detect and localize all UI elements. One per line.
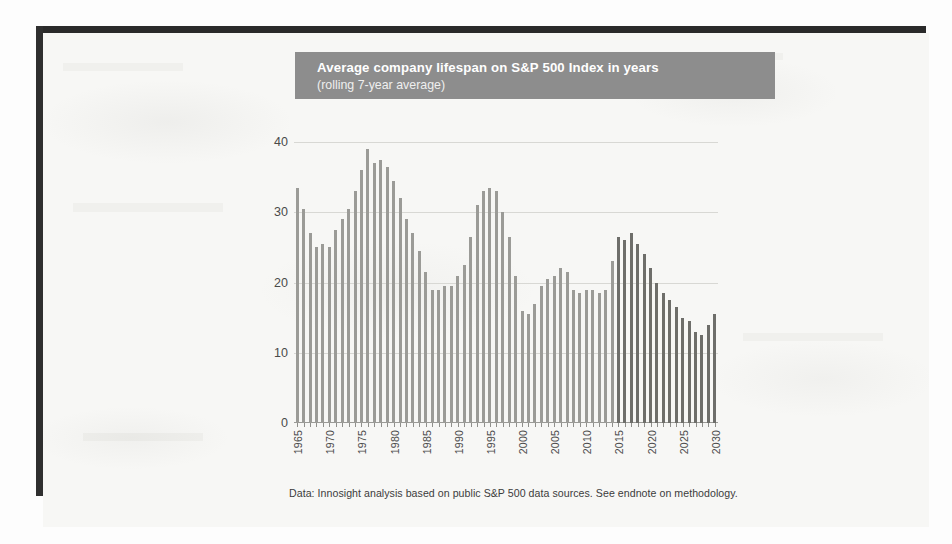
bar	[591, 290, 594, 423]
x-axis-tick-mark	[336, 423, 337, 427]
x-axis-tick-label: 1995	[485, 430, 497, 454]
x-axis-tick-mark	[503, 423, 504, 427]
bar	[321, 244, 324, 423]
bar	[533, 304, 536, 423]
x-axis-tick-mark	[573, 423, 574, 427]
bar	[482, 191, 485, 423]
bar	[296, 188, 299, 423]
x-axis-tick-mark	[464, 423, 465, 427]
plot-area	[294, 128, 718, 423]
bar	[437, 290, 440, 423]
x-axis-tick-mark	[638, 423, 639, 427]
bar	[476, 205, 479, 423]
chart-subtitle: (rolling 7-year average)	[317, 77, 775, 93]
x-axis-tick-label: 1965	[292, 430, 304, 454]
x-axis-tick-label: 1985	[421, 430, 433, 454]
bar	[681, 318, 684, 423]
bar	[521, 311, 524, 423]
bar	[514, 276, 517, 424]
x-axis-tick-mark	[490, 423, 491, 427]
x-axis-tick-mark	[342, 423, 343, 427]
x-axis-tick-mark	[304, 423, 305, 427]
bar	[572, 290, 575, 423]
x-axis-tick-mark	[509, 423, 510, 427]
bar	[508, 237, 511, 423]
x-axis-tick-mark	[368, 423, 369, 427]
y-axis: 010203040	[262, 128, 288, 423]
bar	[611, 261, 614, 423]
chart-plot-wrapper: 010203040 196519701975198019851990199520…	[262, 118, 732, 430]
bar	[630, 233, 633, 423]
x-axis-tick-mark	[670, 423, 671, 427]
x-axis-tick-label: 1975	[356, 430, 368, 454]
x-axis-tick-mark	[644, 423, 645, 427]
x-axis-tick-mark	[554, 423, 555, 427]
x-axis-tick-mark	[541, 423, 542, 427]
x-axis-tick-mark	[323, 423, 324, 427]
x-axis-tick-mark	[528, 423, 529, 427]
bar	[456, 276, 459, 424]
chart-source-note: Data: Innosight analysis based on public…	[289, 487, 809, 499]
x-axis-tick-label: 1970	[324, 430, 336, 454]
x-axis-tick-mark	[702, 423, 703, 427]
x-axis-tick-mark	[445, 423, 446, 427]
bar	[495, 191, 498, 423]
x-axis-tick-mark	[599, 423, 600, 427]
bar	[649, 268, 652, 423]
x-axis-tick-mark	[522, 423, 523, 427]
x-axis-tick-mark	[696, 423, 697, 427]
x-axis-tick-mark	[580, 423, 581, 427]
bar	[688, 321, 691, 423]
x-axis-tick-label: 2025	[678, 430, 690, 454]
x-axis-tick-label: 2020	[646, 430, 658, 454]
bar	[450, 286, 453, 423]
screenshot-page: Average company lifespan on S&P 500 Inde…	[0, 0, 952, 544]
x-axis-tick-mark	[374, 423, 375, 427]
bar	[411, 233, 414, 423]
bar	[662, 293, 665, 423]
x-axis-tick-label: 2005	[549, 430, 561, 454]
x-axis-tick-mark	[394, 423, 395, 427]
bar	[418, 251, 421, 423]
x-axis-tick-label: 1990	[453, 430, 465, 454]
bar	[360, 170, 363, 423]
y-axis-tick-label: 30	[258, 205, 288, 219]
bar	[668, 300, 671, 423]
x-axis-tick-mark	[477, 423, 478, 427]
chart-title: Average company lifespan on S&P 500 Inde…	[317, 59, 775, 76]
bar	[354, 191, 357, 423]
bar	[309, 233, 312, 423]
x-axis-tick-label: 2015	[613, 430, 625, 454]
x-axis-tick-mark	[593, 423, 594, 427]
x-axis-tick-mark	[400, 423, 401, 427]
x-axis-tick-mark	[651, 423, 652, 427]
bar	[443, 286, 446, 423]
bar	[636, 244, 639, 423]
x-axis-tick-mark	[439, 423, 440, 427]
x-axis-tick-mark	[355, 423, 356, 427]
scan-artifact	[63, 63, 183, 71]
x-axis-tick-mark	[586, 423, 587, 427]
x-axis-tick-mark	[484, 423, 485, 427]
bar	[405, 219, 408, 423]
x-axis-tick-mark	[413, 423, 414, 427]
bar	[694, 332, 697, 423]
x-axis-tick-mark	[316, 423, 317, 427]
x-axis-tick-mark	[535, 423, 536, 427]
scan-artifact	[83, 433, 203, 441]
bar	[431, 290, 434, 423]
bar	[527, 314, 530, 423]
bar	[700, 335, 703, 423]
bar	[386, 167, 389, 423]
x-axis-tick-mark	[451, 423, 452, 427]
bar	[341, 219, 344, 423]
x-axis: 1965197019751980198519901995200020052010…	[294, 423, 718, 483]
x-axis-tick-mark	[715, 423, 716, 427]
bar	[379, 160, 382, 423]
x-axis-tick-mark	[606, 423, 607, 427]
x-axis-tick-mark	[548, 423, 549, 427]
y-axis-tick-label: 40	[258, 135, 288, 149]
bar	[585, 290, 588, 423]
x-axis-tick-mark	[631, 423, 632, 427]
x-axis-tick-mark	[297, 423, 298, 427]
